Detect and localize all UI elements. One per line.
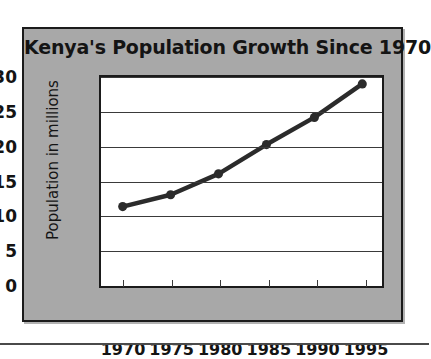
- data-point-1995: [358, 79, 367, 88]
- x-tick-1985: [269, 280, 270, 287]
- page-divider-rule: [0, 343, 429, 345]
- series-markers: [118, 79, 367, 211]
- y-tick-label-30: 30: [0, 67, 17, 87]
- y-tick-label-15: 15: [0, 172, 17, 192]
- gridline-10: [101, 216, 382, 217]
- y-tick-label-0: 0: [0, 276, 17, 296]
- y-tick-label-20: 20: [0, 137, 17, 157]
- chart-title: Kenya's Population Growth Since 1970: [24, 36, 401, 58]
- x-tick-1995: [366, 280, 367, 287]
- x-tick-1980: [220, 280, 221, 287]
- plot-area: 051015202530197019751980198519901995: [99, 75, 384, 288]
- x-tick-1975: [172, 280, 173, 287]
- plot-inner: 051015202530197019751980198519901995: [101, 77, 382, 286]
- y-tick-label-10: 10: [0, 206, 17, 226]
- y-tick-label-5: 5: [0, 241, 17, 261]
- data-point-1970: [118, 202, 127, 211]
- gridline-25: [101, 112, 382, 113]
- data-point-1980: [214, 169, 223, 178]
- x-tick-1990: [317, 280, 318, 287]
- gridline-20: [101, 147, 382, 148]
- chart-frame: Kenya's Population Growth Since 1970 Pop…: [22, 27, 403, 322]
- x-tick-1970: [123, 280, 124, 287]
- data-point-1985: [262, 140, 271, 149]
- data-point-1975: [166, 190, 175, 199]
- gridline-5: [101, 251, 382, 252]
- gridline-30: [101, 77, 382, 78]
- gridline-15: [101, 182, 382, 183]
- data-point-1990: [310, 113, 319, 122]
- y-tick-label-25: 25: [0, 102, 17, 122]
- y-axis-title: Population in millions: [44, 65, 62, 255]
- series-line: [123, 84, 363, 207]
